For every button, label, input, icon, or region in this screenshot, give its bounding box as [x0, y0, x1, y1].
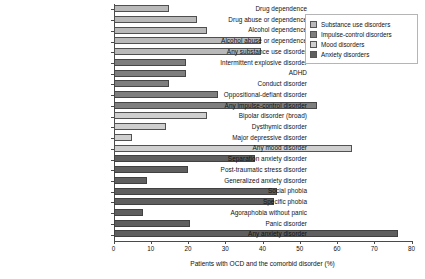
bar [114, 166, 189, 173]
y-axis-tick [111, 84, 114, 85]
category-label: Any anxiety disorder [248, 229, 307, 238]
x-axis-tick [337, 241, 338, 244]
bar [114, 177, 148, 184]
x-axis-title: Patients with OCD and the comorbid disor… [114, 260, 412, 267]
legend-label: Mood disorders [321, 41, 364, 48]
category-label: Drug dependence [255, 4, 307, 13]
y-axis-tick [111, 202, 114, 203]
legend-item: Anxiety disorders [310, 49, 412, 59]
bar-row [114, 133, 133, 142]
category-label: Agoraphobia without panic [230, 208, 307, 217]
bar-row [114, 176, 148, 185]
bar-row [114, 219, 190, 228]
x-axis-tick-label: 40 [259, 245, 266, 252]
bar [114, 209, 144, 216]
y-axis-tick [111, 127, 114, 128]
bar-row [114, 58, 187, 67]
x-axis-tick [374, 241, 375, 244]
bar [114, 198, 274, 205]
y-axis-tick [111, 117, 114, 118]
category-label: Separation anxiety disorder [228, 154, 307, 163]
bar-row [114, 15, 198, 24]
y-axis-tick [111, 52, 114, 53]
bar [114, 123, 166, 130]
legend-items: Substance use disordersImpulse-control d… [310, 19, 412, 59]
y-axis-tick [111, 235, 114, 236]
x-axis-tick [412, 241, 413, 244]
x-axis-tick-label: 10 [147, 245, 154, 252]
bar-row [114, 111, 207, 120]
category-label: Intermittent explosive disorder [220, 58, 307, 67]
bar-row [114, 186, 278, 195]
legend-swatch-icon [310, 51, 317, 58]
category-label: Dysthymic disorder [252, 122, 307, 131]
category-label: Social phobia [268, 186, 307, 195]
x-axis-tick-label: 70 [371, 245, 378, 252]
bar [114, 27, 207, 34]
category-label: Generalized anxiety disorder [224, 176, 307, 185]
bar-row [114, 90, 218, 99]
category-label: Bipolar disorder (broad) [239, 111, 307, 120]
bar-row [114, 208, 144, 217]
chart-legend: Substance use disordersImpulse-control d… [305, 14, 418, 64]
category-label: Any mood disorder [253, 143, 308, 152]
x-axis-tick [114, 241, 115, 244]
x-axis-tick [188, 241, 189, 244]
bar-row [114, 165, 189, 174]
legend-label: Anxiety disorders [321, 51, 369, 58]
bar [114, 80, 170, 87]
bar [114, 5, 170, 12]
bar-row [114, 68, 187, 77]
comorbidity-bar-chart: Drug dependenceDrug abuse or dependenceA… [0, 0, 425, 279]
category-label: Any impulse-control disorder [225, 101, 307, 110]
x-axis-tick [300, 241, 301, 244]
category-label: ADHD [289, 68, 307, 77]
x-axis-tick [263, 241, 264, 244]
y-axis-tick [111, 224, 114, 225]
y-axis-tick [111, 63, 114, 64]
category-label: Conduct disorder [258, 79, 307, 88]
legend-swatch-icon [310, 31, 317, 38]
category-label: Drug abuse or dependence [228, 15, 307, 24]
legend-item: Mood disorders [310, 39, 412, 49]
x-axis-tick-label: 60 [333, 245, 340, 252]
bar [114, 145, 352, 152]
bar [114, 91, 218, 98]
bar-row [114, 4, 170, 13]
category-label: Alcohol dependence [248, 25, 307, 34]
y-axis-tick [111, 42, 114, 43]
bar [114, 220, 190, 227]
category-label: Post-traumatic stress disorder [221, 165, 307, 174]
bar-row [114, 143, 352, 152]
x-axis-tick-label: 30 [222, 245, 229, 252]
bar [114, 59, 187, 66]
bar-row [114, 25, 207, 34]
y-axis-tick [111, 160, 114, 161]
x-axis-tick-label: 0 [112, 245, 116, 252]
bar-row [114, 122, 166, 131]
y-axis-tick [111, 213, 114, 214]
x-axis-tick-label: 50 [296, 245, 303, 252]
y-axis-tick [111, 20, 114, 21]
bar-row [114, 79, 170, 88]
legend-swatch-icon [310, 41, 317, 48]
y-axis-tick [111, 149, 114, 150]
y-axis-tick [111, 95, 114, 96]
y-axis-tick [111, 74, 114, 75]
category-label: Any substance use disorder [227, 47, 307, 56]
x-axis-tick [151, 241, 152, 244]
legend-item: Substance use disorders [310, 19, 412, 29]
x-axis-tick-label: 20 [184, 245, 191, 252]
bar-row [114, 197, 274, 206]
legend-swatch-icon [310, 21, 317, 28]
y-axis-tick [111, 170, 114, 171]
y-axis-tick [111, 192, 114, 193]
y-axis-tick [111, 106, 114, 107]
category-label: Alcohol abuse or dependence [221, 36, 307, 45]
x-axis-tick-label: 80 [408, 245, 415, 252]
y-axis-tick [111, 9, 114, 10]
category-label: Specific phobia [263, 197, 307, 206]
bar [114, 134, 133, 141]
category-label: Major depressive disorder [232, 133, 307, 142]
bar [114, 16, 198, 23]
